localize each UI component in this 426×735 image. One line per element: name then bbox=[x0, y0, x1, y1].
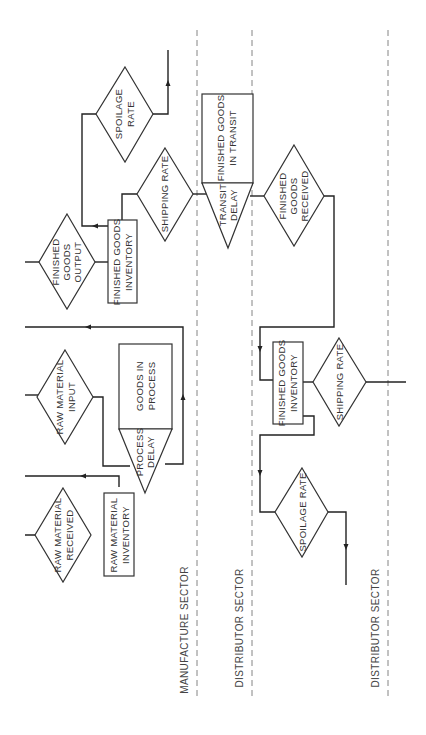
node-finished-goods-received: FINISHEDGOODSRECEIVED bbox=[264, 145, 324, 246]
svg-text:FINISHEDGOODSRECEIVED: FINISHEDGOODSRECEIVED bbox=[277, 171, 310, 222]
svg-text:SPOILAGE RATE: SPOILAGE RATE bbox=[297, 472, 308, 551]
node-finished-goods-output: FINISHEDGOODSOUTPUT bbox=[39, 214, 95, 309]
arrow-icon bbox=[181, 394, 186, 400]
svg-text:GOODS INPROCESS: GOODS INPROCESS bbox=[134, 361, 157, 411]
sector-label-distributor-2: DISTRIBUTOR SECTOR bbox=[370, 568, 381, 687]
flow-line bbox=[82, 114, 108, 226]
node-transit-delay: TRANSITDELAY bbox=[202, 183, 253, 248]
svg-text:TRANSITDELAY: TRANSITDELAY bbox=[217, 184, 239, 227]
flow-line bbox=[328, 512, 346, 585]
arrow-icon bbox=[344, 544, 349, 550]
flow-line bbox=[153, 50, 168, 114]
node-raw-material-inventory: RAW MATERIALINVENTORY bbox=[104, 493, 134, 576]
node-mfg-shipping-rate: SHIPPING RATE bbox=[137, 148, 193, 241]
svg-text:FINISHEDGOODSOUTPUT: FINISHEDGOODSOUTPUT bbox=[50, 239, 83, 286]
arrow-icon bbox=[258, 470, 263, 476]
svg-text:SHIPPING RATE: SHIPPING RATE bbox=[334, 344, 345, 421]
svg-text:SHIPPING RATE: SHIPPING RATE bbox=[159, 156, 170, 233]
arrow-icon bbox=[80, 474, 86, 479]
node-finished-goods-in-transit: FINISHED GOODSIN TRANSIT bbox=[202, 94, 253, 183]
arrow-icon bbox=[92, 224, 98, 229]
node-dist-finished-goods-inventory: FINISHED GOODSINVENTORY bbox=[273, 340, 303, 427]
node-process-delay: PROCESSDELAY bbox=[119, 428, 172, 493]
sector-label-distributor-1: DISTRIBUTOR SECTOR bbox=[234, 568, 245, 687]
arrow-icon bbox=[258, 346, 263, 352]
flow-line bbox=[122, 194, 137, 220]
node-raw-material-input: RAW MATERIALINPUT bbox=[37, 350, 93, 444]
node-dist-shipping-rate: SHIPPING RATE bbox=[313, 338, 366, 426]
node-mfg-spoilage-rate: SPOILAGERATE bbox=[96, 67, 153, 162]
arrow-icon bbox=[166, 80, 171, 86]
node-dist-spoilage-rate: SPOILAGE RATE bbox=[275, 468, 328, 557]
node-goods-in-process: GOODS INPROCESS bbox=[119, 344, 172, 429]
svg-text:RAW MATERIALINVENTORY: RAW MATERIALINVENTORY bbox=[108, 498, 131, 573]
node-mfg-finished-goods-inventory: FINISHED GOODSINVENTORY bbox=[108, 219, 137, 306]
arrow-icon bbox=[85, 325, 91, 330]
flow-diagram: MANUFACTURE SECTOR DISTRIBUTOR SECTOR DI… bbox=[0, 0, 426, 735]
flow-line bbox=[25, 476, 119, 487]
node-raw-material-received: RAW MATERIALRECEIVED bbox=[35, 488, 91, 582]
sector-label-manufacture: MANUFACTURE SECTOR bbox=[179, 566, 190, 694]
